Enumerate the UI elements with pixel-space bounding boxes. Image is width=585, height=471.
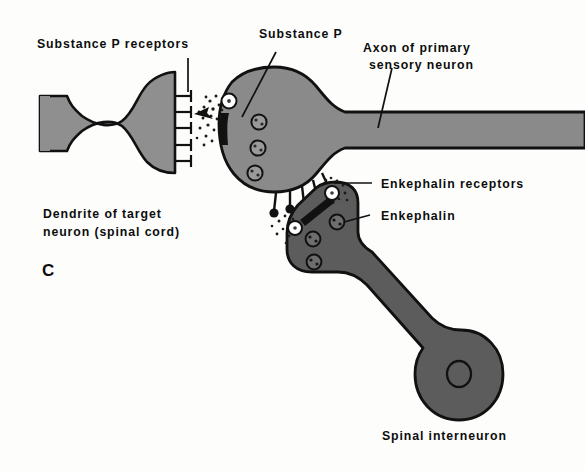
label-substance-p-receptors: Substance P receptors [37, 37, 189, 51]
enkephalin-vesicle [330, 215, 345, 230]
label-dendrite-line2: neuron (spinal cord) [43, 225, 180, 239]
dendrite-stalk [40, 96, 50, 151]
panel-letter-c: C [42, 261, 54, 280]
dendrite-shape [40, 72, 175, 173]
label-enkephalin-receptors: Enkephalin receptors [381, 177, 524, 191]
fusing-vesicle-core [227, 99, 231, 103]
interneuron-nucleus [447, 361, 471, 387]
substance-p-vesicle [251, 114, 266, 129]
label-dendrite-line1: Dendrite of target [43, 207, 162, 221]
substance-p-vesicle [250, 140, 265, 155]
label-enkephalin: Enkephalin [381, 209, 456, 223]
synapse-diagram: Substance P receptors Substance P Axon o… [0, 0, 585, 471]
label-axon-line1: Axon of primary [363, 41, 471, 55]
enkephalin-receptor [269, 193, 278, 218]
primary-sensory-axon-structure [219, 67, 585, 192]
label-substance-p: Substance P [259, 27, 343, 41]
substance-p-vesicle [247, 165, 262, 180]
dendrite-structure [40, 72, 175, 173]
enkephalin-vesicle [307, 255, 322, 270]
label-spinal-interneuron: Spinal interneuron [382, 429, 507, 443]
substance-p-receptors-group [175, 90, 191, 167]
primary-axon-shape [219, 67, 585, 192]
label-axon-line2: sensory neuron [369, 58, 474, 72]
enkephalin-vesicle [306, 232, 321, 247]
